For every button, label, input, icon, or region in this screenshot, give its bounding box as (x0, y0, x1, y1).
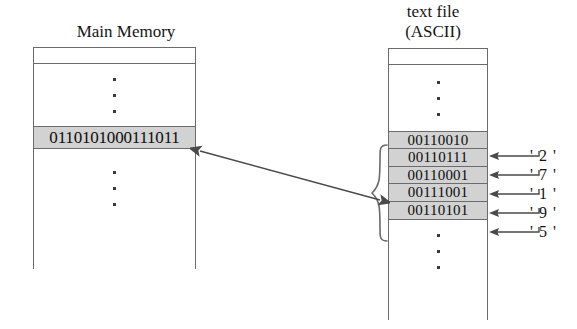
char-label: ' 5 ' (530, 225, 557, 239)
byte-cell: 00110010 (389, 131, 487, 150)
text-file-ellipsis-below (389, 220, 487, 282)
text-file-title: text file (ASCII) (368, 2, 498, 42)
binary-vs-ascii-diagram: Main Memory text file (ASCII) 0110101000… (0, 0, 577, 329)
vertical-ellipsis-icon (113, 171, 116, 206)
byte-cell: 00110001 (389, 166, 487, 185)
main-memory-title: Main Memory (36, 22, 216, 42)
memory-file-connector-arrow-icon (190, 145, 390, 207)
vertical-ellipsis-icon (437, 81, 440, 116)
text-file-ellipsis-above (389, 65, 487, 132)
main-memory-empty-cell (34, 47, 195, 64)
char-label: ' 9 ' (530, 206, 557, 220)
char-label: ' 2 ' (530, 149, 557, 163)
text-file-column: 00110010 00110111 00110001 00111001 0011… (388, 48, 488, 320)
main-memory-column: 0110101000111011 (33, 47, 196, 269)
main-memory-word: 0110101000111011 (34, 126, 195, 149)
char-label: ' 7 ' (530, 168, 557, 182)
text-file-title-line2: (ASCII) (368, 22, 498, 42)
byte-cell: 00110111 (389, 148, 487, 167)
main-memory-ellipsis-below (34, 149, 195, 227)
vertical-ellipsis-icon (113, 78, 116, 113)
char-label: ' 1 ' (530, 187, 557, 201)
text-file-empty-cell (389, 48, 487, 65)
byte-cell: 00111001 (389, 183, 487, 202)
vertical-ellipsis-icon (437, 234, 440, 269)
text-file-title-line1: text file (368, 2, 498, 22)
main-memory-ellipsis-above (34, 64, 195, 126)
byte-cell: 00110101 (389, 201, 487, 220)
